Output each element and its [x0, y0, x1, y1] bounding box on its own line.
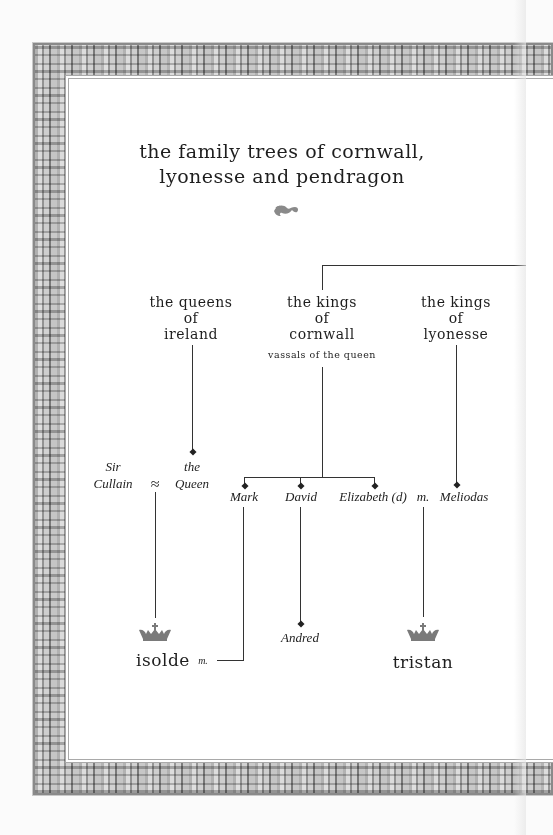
person-elizabeth: Elizabeth (d) [339, 489, 407, 505]
page-edge-shadow [514, 0, 526, 835]
pendragon-connector-line [322, 265, 526, 266]
crown-icon [405, 622, 441, 642]
union-symbol: ≈ [151, 475, 160, 493]
the-queen-line-1: the [184, 459, 200, 475]
header-cornwall-note: vassals of the queen [268, 349, 376, 360]
married-marker-2: m. [198, 655, 208, 666]
the-queen-line-2: Queen [175, 476, 209, 492]
person-david: David [285, 489, 317, 505]
ireland-descent-line [192, 345, 193, 452]
header-ireland-line-1: the queens [149, 294, 232, 310]
crown-icon [137, 622, 173, 642]
tristan-descent-line [423, 507, 424, 617]
sir-cullain-line-2: Cullain [93, 476, 132, 492]
header-ireland-line-3: ireland [164, 326, 218, 342]
mark-isolde-marriage-connector [217, 660, 244, 661]
header-ireland-line-2: of [184, 310, 199, 326]
header-lyonesse-line-3: lyonesse [424, 326, 489, 342]
isolde-descent-line [155, 492, 156, 618]
mark-marriage-line [243, 507, 244, 660]
person-mark: Mark [230, 489, 258, 505]
person-andred: Andred [281, 630, 319, 646]
header-cornwall-line-1: the kings [287, 294, 357, 310]
cornwall-sibling-bar [244, 477, 375, 478]
sir-cullain-line-1: Sir [105, 459, 120, 475]
title-line-2: lyonesse and pendragon [159, 165, 404, 187]
header-lyonesse-line-1: the kings [421, 294, 491, 310]
lyonesse-descent-line [456, 345, 457, 485]
person-isolde: isolde [136, 650, 190, 670]
person-tristan: tristan [393, 652, 454, 672]
cornwall-descent-line [322, 367, 323, 477]
fleuron-ornament-icon [271, 202, 301, 218]
header-cornwall-line-3: cornwall [289, 326, 354, 342]
andred-descent-line [300, 507, 301, 624]
header-cornwall-line-2: of [315, 310, 330, 326]
title-line-1: the family trees of cornwall, [139, 140, 425, 162]
married-marker-1: m. [417, 489, 430, 505]
person-meliodas: Meliodas [440, 489, 488, 505]
header-lyonesse-line-2: of [449, 310, 464, 326]
cornwall-top-connector [322, 265, 323, 290]
